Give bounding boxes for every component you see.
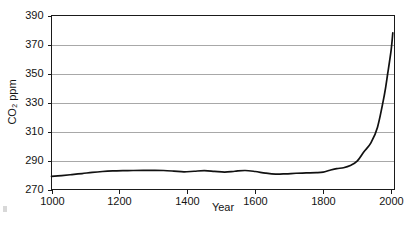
y-tick-label: 390 (25, 9, 43, 21)
page-speck (3, 206, 7, 212)
y-axis-title: CO₂ ppm (6, 79, 18, 124)
chart-canvas: 270290310330350370390 100012001400160018… (0, 0, 409, 231)
y-tick-label: 330 (25, 96, 43, 108)
x-tick-label: 1200 (107, 195, 131, 207)
x-axis-title: Year (212, 201, 235, 213)
y-tick-label: 290 (25, 154, 43, 166)
co2-series-line (52, 33, 393, 177)
gridlines (52, 46, 395, 162)
plot-frame (52, 16, 395, 190)
y-axis-ticks: 270290310330350370390 (25, 9, 51, 195)
x-tick-label: 1800 (311, 195, 335, 207)
y-tick-label: 310 (25, 125, 43, 137)
y-tick-label: 350 (25, 67, 43, 79)
co2-line-chart: 270290310330350370390 100012001400160018… (0, 0, 409, 231)
x-tick-label: 1400 (175, 195, 199, 207)
x-tick-label: 2000 (379, 195, 403, 207)
x-tick-label: 1600 (243, 195, 267, 207)
x-tick-label: 1000 (40, 195, 64, 207)
y-tick-label: 370 (25, 38, 43, 50)
